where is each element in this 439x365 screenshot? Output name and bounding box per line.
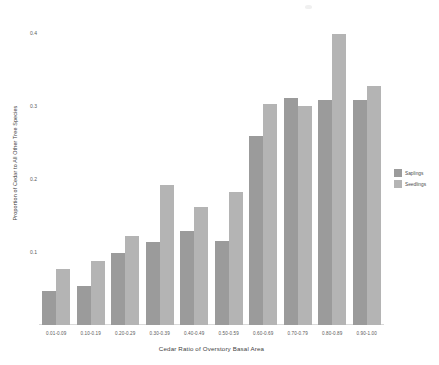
- legend-item: Saplings: [394, 169, 439, 177]
- x-axis-tick-label: 0.90-1.00: [357, 331, 377, 336]
- x-axis-tick-label: 0.70-0.79: [288, 331, 308, 336]
- x-axis-tick-label: 0.40-0.49: [184, 331, 204, 336]
- x-axis-tick-label: 0.30-0.39: [150, 331, 170, 336]
- x-axis-tick-label: 0.50-0.59: [219, 331, 239, 336]
- chart-legend: SaplingsSeedlings: [394, 169, 439, 191]
- legend-label: Saplings: [405, 171, 423, 176]
- legend-swatch: [394, 169, 402, 177]
- legend-item: Seedlings: [394, 180, 439, 188]
- x-axis-tick-label: 0.60-0.69: [253, 331, 273, 336]
- x-axis-tick-label: 0.20-0.29: [115, 331, 135, 336]
- y-axis-tick-label: 0.3: [30, 103, 37, 109]
- x-axis-tick-label: 0.10-0.19: [81, 331, 101, 336]
- x-axis-ticks: 0.01-0.090.10-0.190.20-0.290.30-0.390.40…: [39, 0, 384, 365]
- bar-chart-figure: Proportion of Cedar to All Other Tree Sp…: [0, 0, 439, 365]
- legend-label: Seedlings: [405, 182, 426, 187]
- y-axis-tick-label: 0.2: [30, 176, 37, 182]
- x-axis-tick-label: 0.01-0.09: [46, 331, 66, 336]
- y-axis-ticks: 0.10.20.30.4: [0, 0, 37, 365]
- y-axis-tick-label: 0.4: [30, 30, 37, 36]
- x-axis-tick-label: 0.80-0.89: [322, 331, 342, 336]
- y-axis-tick-label: 0.1: [30, 249, 37, 255]
- legend-swatch: [394, 180, 402, 188]
- x-axis-title: Cedar Ratio of Overstory Basal Area: [39, 345, 384, 352]
